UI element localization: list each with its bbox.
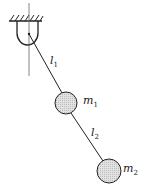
mass-m1	[55, 92, 77, 114]
label-l1: l1	[50, 55, 58, 69]
label-m2: m2	[123, 163, 138, 177]
ceiling-support	[9, 15, 43, 21]
mass-m2	[97, 159, 121, 183]
label-m1: m1	[83, 95, 98, 109]
pivot-bracket	[17, 21, 38, 45]
double-pendulum-diagram	[0, 0, 143, 190]
label-l2: l2	[91, 127, 99, 141]
